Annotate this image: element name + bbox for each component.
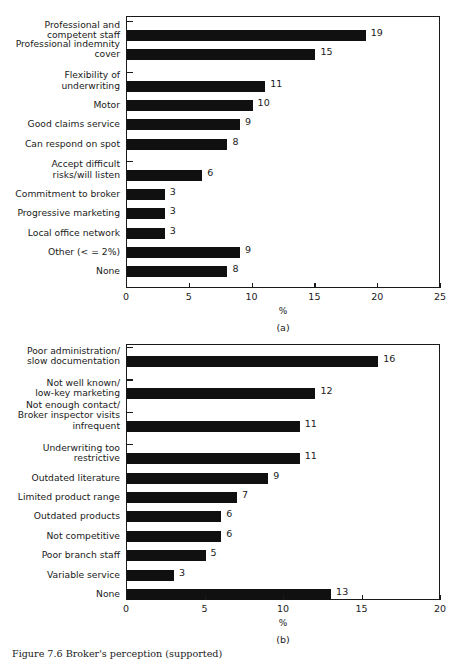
x-axis-label-a: % [279,306,288,316]
bar [127,570,174,581]
bar-rows-a: Professional and competent staff19Profes… [0,0,460,325]
bar [127,473,268,484]
x-axis-tick [189,283,190,288]
bar-value-label: 12 [320,385,332,396]
y-axis-group-tick [127,444,133,445]
x-axis-tick-label: 15 [355,603,367,614]
x-axis-label-b: % [279,618,288,628]
bar-value-label: 6 [226,508,232,519]
bar-row: 9 [0,469,460,488]
bar-value-label: 5 [211,547,217,558]
bar-value-label: 8 [232,263,238,274]
bar-row: 16 [0,352,460,371]
chart-panel-b: Poor administration/ slow documentation1… [0,330,460,630]
bar-value-label: 9 [245,244,251,255]
x-axis-tick-label: 20 [371,291,383,302]
bar [127,356,378,367]
bar-row: 7 [0,488,460,507]
x-axis-tick-label: 15 [308,291,320,302]
bar-row: 6 [0,507,460,526]
bar-row: 13 [0,585,460,604]
bar-row: 9 [0,243,460,262]
x-axis-tick [377,283,378,288]
bar-row: 3 [0,224,460,243]
bar [127,208,165,219]
bar-value-label: 3 [170,205,176,216]
x-axis-tick [440,283,441,288]
y-axis-group-tick [127,72,133,73]
bar-row: 11 [0,417,460,436]
bar [127,531,221,542]
y-axis-group-tick [127,379,133,380]
bar [127,170,202,181]
y-axis-group-tick [127,161,133,162]
bar-value-label: 7 [242,489,248,500]
bar-value-label: 15 [320,46,332,57]
bar-value-label: 11 [305,450,317,461]
bar [127,589,331,600]
bar-value-label: 3 [179,567,185,578]
bar [127,511,221,522]
bar-value-label: 16 [383,353,395,364]
x-axis-tick [126,595,127,600]
bar-value-label: 10 [258,97,270,108]
bar-value-label: 9 [273,470,279,481]
bar [127,49,315,60]
bar-value-label: 6 [226,528,232,539]
bar-value-label: 11 [305,418,317,429]
chart-panel-a: Professional and competent staff19Profes… [0,0,460,325]
x-axis-tick [314,283,315,288]
x-axis-tick-label: 0 [123,291,129,302]
x-axis-tick-label: 20 [434,603,446,614]
x-axis-tick [252,283,253,288]
x-axis-tick [362,595,363,600]
bar [127,100,253,111]
bar-value-label: 19 [371,27,383,38]
bar [127,81,265,92]
bar-row: 11 [0,449,460,468]
x-axis-tick-label: 25 [434,291,446,302]
bar-value-label: 11 [270,78,282,89]
x-axis-tick [440,595,441,600]
bar-value-label: 9 [245,116,251,127]
bar [127,388,315,399]
x-axis-tick-label: 10 [277,603,289,614]
x-axis-tick-label: 10 [246,291,258,302]
bar-row: 9 [0,115,460,134]
bar-row: 3 [0,204,460,223]
x-axis-tick [283,595,284,600]
y-axis-group-tick [127,412,133,413]
bar-row: 6 [0,527,460,546]
bar [127,492,237,503]
bar-value-label: 8 [232,136,238,147]
bar-rows-b: Poor administration/ slow documentation1… [0,330,460,630]
bar [127,30,366,41]
bar-row: 3 [0,185,460,204]
bar-row: 8 [0,135,460,154]
panel-tag-b: (b) [276,634,289,645]
bar [127,139,227,150]
bar-value-label: 3 [170,186,176,197]
y-axis-group-tick [127,347,133,348]
bar [127,421,300,432]
bar [127,119,240,130]
bar-row: 10 [0,96,460,115]
bar-row: 11 [0,77,460,96]
bar-row: 3 [0,566,460,585]
bar-row: 5 [0,546,460,565]
figure-caption: Figure 7.6 Broker's perception (supporte… [12,648,452,660]
bar [127,453,300,464]
bar-row: 15 [0,45,460,64]
bar-value-label: 3 [170,225,176,236]
y-axis-group-tick [127,21,133,22]
x-axis-tick [126,283,127,288]
bar-value-label: 6 [207,167,213,178]
x-axis-tick-label: 5 [186,291,192,302]
bar-row: 8 [0,262,460,281]
bar [127,550,206,561]
x-axis-tick-label: 5 [201,603,207,614]
x-axis-tick [205,595,206,600]
bar-row: 6 [0,166,460,185]
x-axis-tick-label: 0 [123,603,129,614]
bar [127,228,165,239]
